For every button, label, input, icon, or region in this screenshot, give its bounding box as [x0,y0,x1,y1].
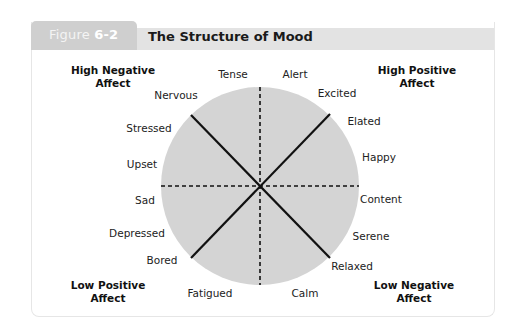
mood-happy: Happy [362,151,396,163]
mood-stressed: Stressed [126,122,171,134]
mood-sad: Sad [135,194,155,206]
mood-fatigued: Fatigued [188,287,233,299]
mood-serene: Serene [353,230,390,242]
mood-content: Content [360,193,402,205]
mood-tense: Tense [218,68,248,80]
corner-low-negative-affect: Low NegativeAffect [374,279,454,305]
mood-depressed: Depressed [109,227,165,239]
corner-low-positive-affect: Low PositiveAffect [71,279,146,305]
corner-high-positive-affect: High PositiveAffect [378,64,456,90]
mood-alert: Alert [283,68,308,80]
mood-calm: Calm [292,287,319,299]
mood-relaxed: Relaxed [331,260,373,272]
corner-high-negative-affect: High NegativeAffect [71,64,155,90]
mood-nervous: Nervous [154,89,197,101]
mood-upset: Upset [127,158,157,170]
mood-elated: Elated [347,115,380,127]
mood-excited: Excited [318,87,357,99]
mood-bored: Bored [147,254,178,266]
